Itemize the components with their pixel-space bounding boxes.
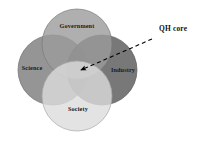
label-government: Government [60, 22, 96, 29]
label-society: Society [68, 105, 89, 112]
quadruple-helix-venn-diagram: Government Science Industry Society QH c… [0, 0, 209, 144]
diagram-canvas: Government Science Industry Society QH c… [0, 0, 209, 144]
qh-core-label: QH core [159, 24, 188, 33]
circle-society[interactable] [42, 61, 112, 131]
label-industry: Industry [111, 66, 136, 73]
label-science: Science [22, 64, 43, 71]
